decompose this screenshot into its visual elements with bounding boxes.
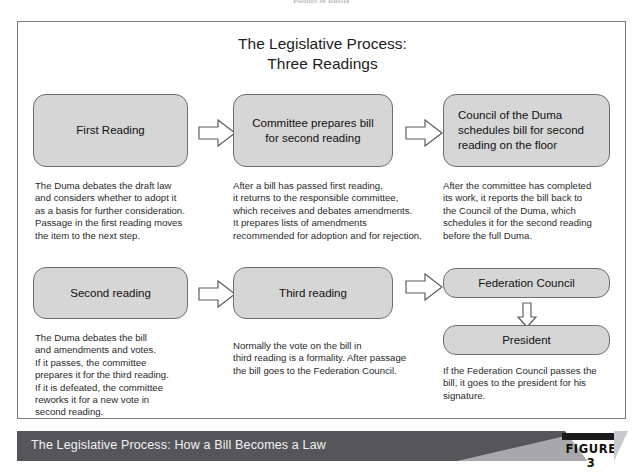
annotation-second-reading: The Duma debates the bill and amendments… — [35, 332, 230, 419]
node-council-schedules[interactable]: Council of the Duma schedules bill for s… — [443, 94, 610, 167]
figure-frame: The Legislative Process: Three Readings … — [17, 21, 626, 419]
arrow-committee-to-council — [405, 118, 443, 148]
figure-number-label: FIGURE 3 — [562, 442, 620, 470]
figure-title-line-2: Three Readings — [18, 54, 627, 74]
annotation-president: If the Federation Council passes the bil… — [443, 365, 623, 402]
figure-caption-band: The Legislative Process: How a Bill Beco… — [17, 431, 626, 461]
figure-title: The Legislative Process: Three Readings — [18, 34, 627, 74]
annotation-council-schedules: After the committee has completed its wo… — [443, 180, 623, 242]
node-president[interactable]: President — [443, 325, 610, 355]
arrow-second-to-third — [198, 279, 236, 309]
node-committee-prepares[interactable]: Committee prepares bill for second readi… — [233, 94, 393, 167]
figure-number-bar — [562, 433, 620, 440]
figure-number-tab: FIGURE 3 — [558, 431, 624, 461]
node-first-reading[interactable]: First Reading — [33, 94, 188, 167]
annotation-first-reading: The Duma debates the draft law and consi… — [35, 180, 225, 242]
annotation-committee-prepares: After a bill has passed first reading, i… — [233, 180, 438, 242]
figure-caption-text: The Legislative Process: How a Bill Beco… — [31, 438, 326, 452]
arrow-first-to-committee — [198, 118, 236, 148]
annotation-third-reading: Normally the vote on the bill in third r… — [233, 340, 443, 377]
running-head: Politics in Russia — [0, 0, 643, 5]
node-federation-council[interactable]: Federation Council — [443, 268, 610, 298]
node-third-reading[interactable]: Third reading — [233, 267, 393, 319]
figure-title-line-1: The Legislative Process: — [18, 34, 627, 54]
arrow-third-to-federation — [405, 272, 443, 302]
node-second-reading[interactable]: Second reading — [33, 267, 188, 319]
